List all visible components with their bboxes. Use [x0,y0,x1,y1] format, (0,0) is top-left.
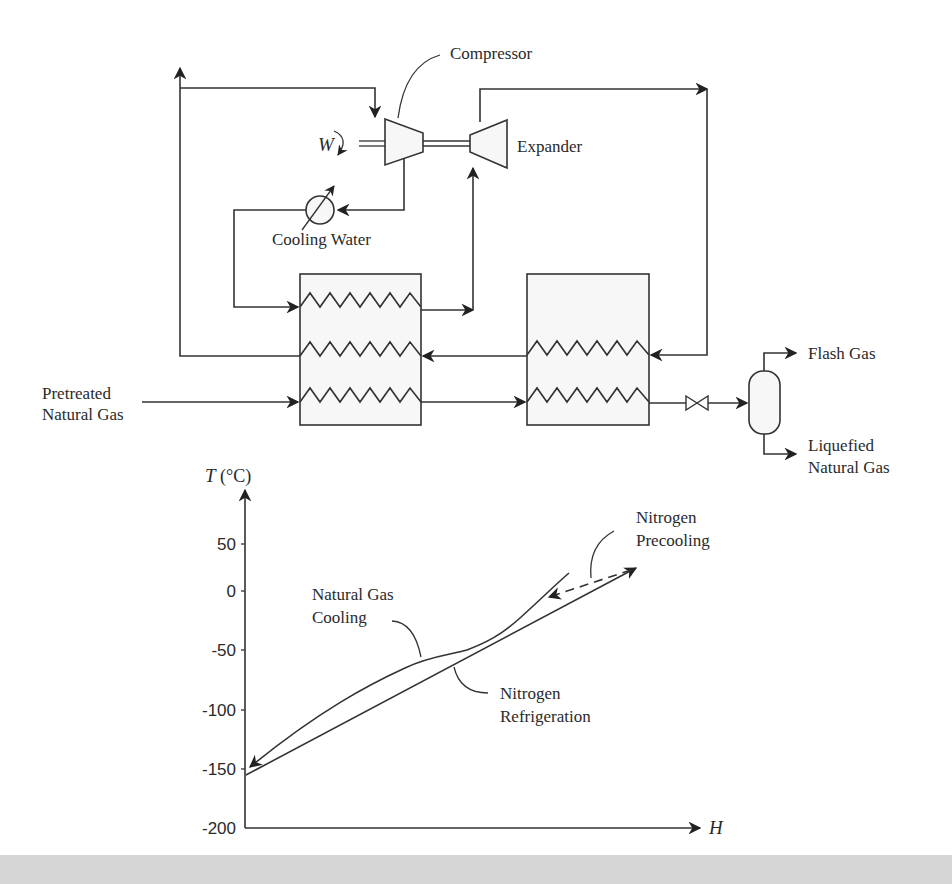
heat-exchanger-1 [300,274,421,425]
cooler-icon [302,186,334,230]
cooled-nitrogen-line [234,210,306,307]
flash-gas-label: Flash Gas [808,344,876,363]
refrigeration-label-line2: Refrigeration [500,707,591,726]
expander-label: Expander [517,137,582,156]
nitrogen-refrigeration-curve [246,568,636,775]
cold-nitrogen-line [651,89,707,355]
heat-exchanger-2 [527,274,649,425]
feed-label-line1: Pretreated [42,384,111,403]
ng-cooling-label-line2: Cooling [312,608,367,627]
diagram-canvas: W Compressor Expander Cooling Water Pret… [0,0,952,884]
work-arrow-icon [334,131,343,155]
flash-gas-line [764,353,796,371]
precooling-label-line1: Nitrogen [636,508,697,527]
ng-cooling-label-line1: Natural Gas [312,585,394,604]
compressor-leader [398,55,440,118]
y-tick-label: 0 [227,582,236,601]
valve-icon [686,396,708,410]
cooling-water-label: Cooling Water [272,230,371,249]
y-ticks: 50 0 -50 -100 -150 -200 [202,535,245,838]
y-tick-label: 50 [217,535,236,554]
ng-cooling-leader [392,621,421,657]
natural-gas-cooling-curve [250,573,569,767]
y-tick-label: -100 [202,701,236,720]
feed-label-line2: Natural Gas [42,405,124,424]
work-label: W [318,134,336,155]
lng-line [764,434,796,454]
process-flow-diagram: W Compressor Expander Cooling Water Pret… [0,0,952,884]
refrigeration-leader [454,667,488,693]
precooling-label-line2: Precooling [636,531,710,550]
compressor-label: Compressor [450,44,533,63]
y-axis-label-unit: (°C) [220,466,251,487]
separator-icon [749,371,780,434]
y-tick-label: -50 [211,641,236,660]
expander-outlet-line [480,89,707,122]
x-axis-label: H [708,817,724,838]
lng-label-line1: Liquefied [808,436,875,455]
y-tick-label: -150 [202,760,236,779]
expander [470,120,507,168]
page-edge-strip [0,855,952,884]
th-chart: T (°C) H 50 0 -50 -100 -150 -200 Natural… [202,465,724,838]
y-tick-label: -200 [202,819,236,838]
lng-label-line2: Natural Gas [808,458,890,477]
refrigeration-label-line1: Nitrogen [500,684,561,703]
precooling-leader [591,531,614,578]
expander-icon [470,120,507,168]
y-axis-label-symbol: T [205,465,217,486]
compressor-outlet-line [338,158,404,210]
